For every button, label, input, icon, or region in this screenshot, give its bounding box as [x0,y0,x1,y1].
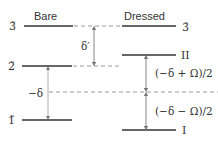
energy-level-diagram: Bare Dressed 3̃ 2̃ 1̃ 3̃ II I δ′ −δ (−δ … [0,0,218,141]
bare-level-3-label: 3̃ [9,20,16,33]
lower-right-gap-label: (−δ − Ω)/2 [155,105,213,117]
dressed-level-3-label: 3̃ [182,21,189,34]
upper-right-gap-label: (−δ + Ω)/2 [155,67,213,79]
delta-prime-label: δ′ [81,40,90,52]
dressed-level-II-label: II [181,49,190,62]
dressed-level-I-label: I [182,124,186,137]
minus-delta-label: −δ [28,87,43,99]
bare-level-1-label: 1̃ [8,114,15,127]
bare-level-2-label: 2̃ [8,60,15,73]
bare-header: Bare [34,10,57,22]
dressed-header: Dressed [124,10,165,22]
